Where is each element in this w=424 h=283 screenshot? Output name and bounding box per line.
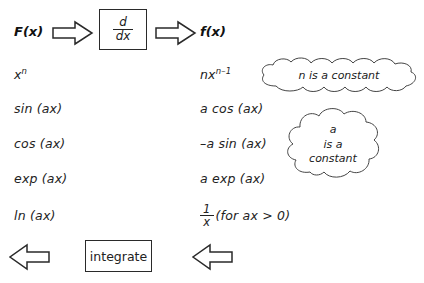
input-formula-sin: sin (ax)	[14, 101, 62, 116]
output-formula-reciprocal: 1 x (for ax > 0)	[200, 203, 290, 229]
input-formula-exp: exp (ax)	[14, 171, 67, 186]
arrow-right-icon	[155, 20, 197, 46]
callout-text: n is a constant	[258, 69, 420, 84]
output-formula-neg-asin: –a sin (ax)	[200, 136, 267, 151]
power-coefficient: nx	[200, 67, 216, 82]
integrate-label: integrate	[90, 249, 147, 264]
input-function-label: F(x)	[14, 24, 43, 39]
fraction-numerator: 1	[200, 203, 214, 216]
power-exponent: n	[22, 66, 28, 76]
fraction-numerator: d	[113, 16, 134, 30]
arrow-right-icon	[52, 20, 94, 46]
fraction-denominator: dx	[113, 30, 134, 43]
power-base: x	[14, 67, 22, 82]
input-formula-cos: cos (ax)	[14, 136, 65, 151]
power-exponent: n–1	[216, 66, 232, 76]
output-formula-power: nxn–1	[200, 66, 231, 82]
reciprocal-condition: (for ax > 0)	[216, 208, 291, 223]
output-function-label: f(x)	[200, 24, 226, 39]
integrate-box: integrate	[85, 240, 152, 272]
arrow-left-icon	[8, 243, 50, 271]
derivative-integral-diagram: F(x) d dx f(x) xn sin (ax) cos (ax) exp …	[0, 0, 424, 283]
input-formula-power: xn	[14, 66, 27, 82]
output-formula-aexp: a exp (ax)	[200, 171, 265, 186]
input-formula-ln: ln (ax)	[14, 208, 56, 223]
callout-a-is-a-constant: a is a constant	[283, 106, 383, 180]
output-formula-acos: a cos (ax)	[200, 101, 263, 116]
d-dx-fraction: d dx	[113, 16, 134, 43]
fraction-denominator: x	[200, 216, 214, 228]
callout-text: a is a constant	[283, 123, 383, 167]
callout-n-is-a-constant: n is a constant	[258, 56, 420, 96]
derivative-operator-box: d dx	[99, 9, 147, 50]
arrow-left-icon	[191, 243, 233, 271]
one-over-x-fraction: 1 x	[200, 203, 214, 229]
